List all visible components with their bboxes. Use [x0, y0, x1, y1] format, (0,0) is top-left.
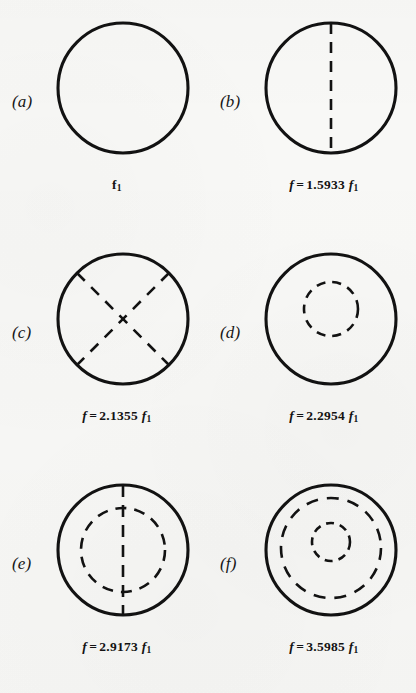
frequency-caption-b: f=1.5933 f1	[208, 178, 416, 193]
membrane-boundary-circle	[266, 485, 396, 615]
caption-eq-e: =	[87, 639, 99, 654]
caption-eq-d: =	[294, 408, 306, 423]
membrane-diagram-d	[256, 237, 406, 402]
nodal-circle-inner-1	[304, 282, 358, 336]
frequency-caption-d: f=2.2954 f1	[208, 409, 416, 424]
frequency-caption-c: f=2.1355 f1	[0, 409, 208, 424]
caption-value-b: 1.5933	[306, 177, 345, 192]
mode-panel-f: (f) f=3.5985 f1	[208, 462, 416, 693]
panel-letter-b: (b)	[220, 93, 240, 110]
membrane-diagram-a	[48, 6, 198, 171]
caption-value-e: 2.9173	[99, 639, 138, 654]
membrane-boundary-circle	[266, 254, 396, 384]
panel-letter-a: (a)	[12, 93, 32, 110]
panel-letter-d: (d)	[220, 324, 240, 341]
frequency-caption-a: f1	[0, 178, 208, 193]
caption-value-f: 3.5985	[306, 639, 345, 654]
panel-letter-e: (e)	[12, 555, 31, 572]
panel-letter-c: (c)	[12, 324, 31, 341]
caption-eq-b: =	[294, 177, 306, 192]
membrane-boundary-circle	[58, 23, 188, 153]
mode-panel-d: (d) f=2.2954 f1	[208, 231, 416, 462]
mode-panel-a: (a) f1	[0, 0, 208, 231]
nodal-circle-inner-2	[312, 523, 350, 561]
mode-panel-e: (e) f=2.9173 f1	[0, 462, 208, 693]
caption-value-c: 2.1355	[99, 408, 138, 423]
membrane-diagram-b	[256, 6, 406, 171]
membrane-diagram-f	[256, 468, 406, 633]
caption-base-sub-f: 1	[354, 645, 359, 655]
caption-base-sub-b: 1	[354, 183, 359, 193]
frequency-caption-f: f=3.5985 f1	[208, 640, 416, 655]
panel-letter-f: (f)	[220, 555, 237, 572]
caption-value-d: 2.2954	[306, 408, 345, 423]
caption-base-sub-e: 1	[147, 645, 152, 655]
mode-panel-c: (c) f=2.1355 f1	[0, 231, 208, 462]
nodal-circle-inner-1	[281, 498, 381, 598]
frequency-caption-e: f=2.9173 f1	[0, 640, 208, 655]
mode-panel-b: (b) f=1.5933 f1	[208, 0, 416, 231]
caption-base-sub-d: 1	[354, 414, 359, 424]
caption-eq-f: =	[294, 639, 306, 654]
caption-base-sub-a: 1	[117, 183, 122, 193]
caption-base-sub-c: 1	[147, 414, 152, 424]
caption-eq-c: =	[87, 408, 99, 423]
membrane-diagram-e	[48, 468, 198, 633]
membrane-diagram-c	[48, 237, 198, 402]
membrane-mode-figure: (a) f1 (b) f=1.5933 f1 (c)	[0, 0, 416, 693]
